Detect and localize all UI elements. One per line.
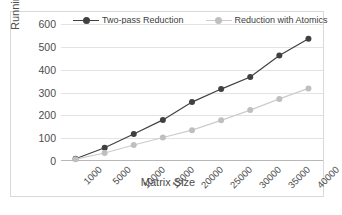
- data-point[interactable]: [276, 96, 282, 102]
- data-point[interactable]: [218, 86, 224, 92]
- x-axis-title: Matrix Size: [11, 176, 325, 188]
- y-axis-tick-label: 300: [38, 87, 56, 99]
- data-point[interactable]: [247, 74, 253, 80]
- y-axis-tick-label: 200: [38, 109, 56, 121]
- data-point[interactable]: [102, 145, 108, 151]
- data-point[interactable]: [276, 53, 282, 59]
- y-axis-tick-label: 100: [38, 132, 56, 144]
- data-point[interactable]: [102, 150, 108, 156]
- legend-marker-reduction-with-atomics: [206, 16, 232, 24]
- data-point[interactable]: [189, 127, 195, 133]
- y-axis-tick-label: 0: [50, 155, 56, 167]
- data-point[interactable]: [160, 117, 166, 123]
- data-point[interactable]: [247, 107, 253, 113]
- series-container: [61, 24, 323, 161]
- plot-area: 6005004003002001000: [61, 24, 323, 161]
- y-axis-tick-label: 500: [38, 41, 56, 53]
- series-line: [76, 39, 309, 159]
- y-axis-title: Running Time(ms): [9, 0, 21, 40]
- legend-marker-two-pass-reduction: [73, 16, 99, 24]
- y-axis-tick-label: 400: [38, 64, 56, 76]
- data-point[interactable]: [218, 117, 224, 123]
- data-point[interactable]: [305, 85, 311, 91]
- series-line: [76, 88, 309, 159]
- data-point[interactable]: [131, 131, 137, 137]
- data-point[interactable]: [189, 99, 195, 105]
- data-point[interactable]: [131, 142, 137, 148]
- y-axis-tick-label: 600: [38, 18, 56, 30]
- series-2: [73, 85, 312, 162]
- series-1: [73, 36, 312, 162]
- data-point[interactable]: [305, 36, 311, 42]
- data-point[interactable]: [160, 134, 166, 140]
- chart-frame: Two-pass Reduction Reduction with Atomic…: [10, 11, 324, 197]
